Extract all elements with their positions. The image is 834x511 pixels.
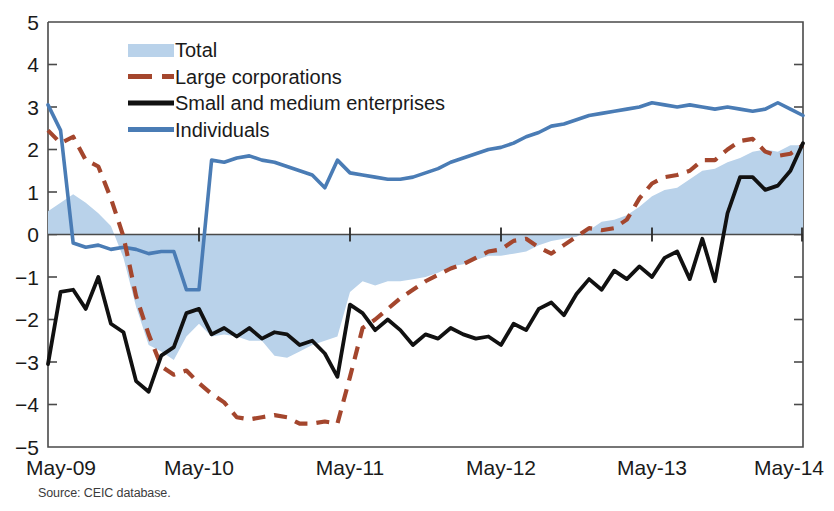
x-axis-label-May-14: May-14 (754, 456, 824, 479)
chart-canvas: 543210−1−2−3−4−5May-09May-10May-11May-12… (0, 0, 834, 511)
x-axis-label-May-09: May-09 (26, 456, 96, 479)
y-axis-label-−2: −2 (15, 308, 39, 331)
legend-item-0[interactable]: Total (128, 39, 217, 61)
legend-label-1: Large corporations (175, 66, 342, 88)
x-axis-label-May-11: May-11 (316, 456, 384, 479)
legend-label-0: Total (175, 39, 217, 61)
legend-swatch-total (128, 44, 174, 57)
y-axis-label-3: 3 (27, 96, 39, 119)
y-axis-label-−3: −3 (15, 351, 39, 374)
x-axis-label-May-13: May-13 (617, 456, 687, 479)
legend-item-3[interactable]: Individuals (128, 119, 270, 141)
y-axis-label-2: 2 (27, 138, 39, 161)
y-axis-label-0: 0 (27, 223, 39, 246)
y-axis-label-5: 5 (27, 11, 39, 34)
figure-container: 543210−1−2−3−4−5May-09May-10May-11May-12… (0, 0, 834, 511)
legend-item-1[interactable]: Large corporations (128, 66, 342, 88)
y-axis-label-−4: −4 (15, 393, 39, 416)
legend-label-3: Individuals (175, 119, 270, 141)
y-axis-label-−1: −1 (15, 266, 39, 289)
y-axis-label-4: 4 (27, 53, 39, 76)
x-axis-label-May-12: May-12 (466, 456, 536, 479)
legend-item-2[interactable]: Small and medium enterprises (128, 92, 445, 114)
y-axis-label-1: 1 (27, 181, 39, 204)
legend-label-2: Small and medium enterprises (175, 92, 445, 114)
x-axis-label-May-10: May-10 (164, 456, 234, 479)
source-note: Source: CEIC database. (38, 486, 171, 500)
